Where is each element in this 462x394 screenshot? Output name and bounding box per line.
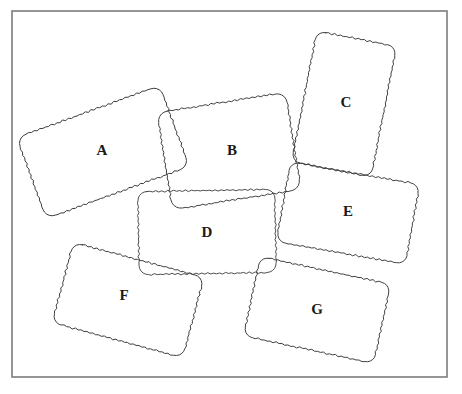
rectangle-g-label: G <box>311 301 323 317</box>
rectangle-e-label: E <box>343 203 353 219</box>
rectangle-b-label: B <box>227 142 237 158</box>
rectangle-a-label: A <box>97 142 108 158</box>
shapes-layer: ABCDEFG <box>16 30 421 365</box>
rectangle-f-label: F <box>119 287 128 303</box>
rectangle-c-label: C <box>341 94 352 110</box>
figure-root: ABCDEFG <box>0 0 462 394</box>
diagram-canvas: ABCDEFG <box>0 0 462 394</box>
rectangle-d-label: D <box>202 224 213 240</box>
